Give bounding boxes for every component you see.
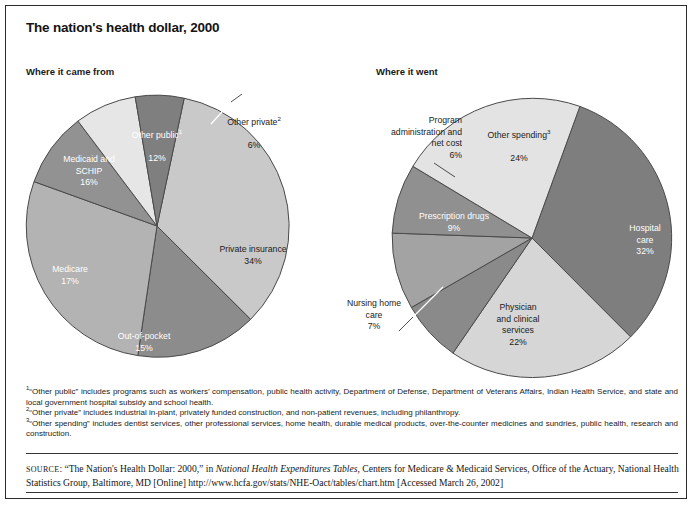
footnote-3: 3“Other spending” includes dentist servi… bbox=[26, 419, 678, 440]
footnote-marker-1: 1 bbox=[179, 128, 182, 135]
label-other-spending-name: Other spending bbox=[488, 130, 547, 140]
label-nursing-home-care: Nursing home care 7% bbox=[332, 298, 416, 333]
label-out-of-pocket: Out-of-pocket 15% bbox=[92, 331, 196, 354]
label-private-insurance: Private insurance 34% bbox=[198, 244, 308, 267]
footnote-marker-3: 3 bbox=[547, 128, 550, 135]
label-medicare: Medicare 17% bbox=[26, 264, 114, 287]
source-text-part1: : “The Nation's Health Dollar: 2000,” in bbox=[59, 463, 215, 474]
source-label: SOURCE bbox=[26, 465, 59, 474]
footnote-2-text: “Other private” includes industrial in-p… bbox=[29, 408, 460, 417]
label-other-spending: Other spending3 24% bbox=[461, 118, 577, 164]
divider-below-source bbox=[26, 492, 678, 493]
figure-frame: The nation's health dollar, 2000 Where i… bbox=[5, 5, 687, 499]
divider-above-source bbox=[26, 453, 678, 454]
source-note: SOURCE: “The Nation's Health Dollar: 200… bbox=[26, 462, 682, 489]
label-other-spending-value: 24% bbox=[510, 153, 527, 163]
footnote-1-text: “Other public” includes programs such as… bbox=[26, 387, 678, 407]
label-medicaid-schip: Medicaid and SCHIP 16% bbox=[38, 154, 140, 189]
label-other-private-value: 6% bbox=[248, 140, 261, 150]
figure-page: The nation's health dollar, 2000 Where i… bbox=[0, 0, 694, 505]
label-other-private-text: Other private bbox=[227, 117, 277, 127]
label-other-public-value: 12% bbox=[148, 153, 165, 163]
footnote-marker-2: 2 bbox=[277, 115, 280, 122]
label-prescription-drugs: Prescription drugs 9% bbox=[396, 211, 512, 234]
label-hospital-care: Hospital care 32% bbox=[614, 223, 676, 258]
footnotes-block: 1“Other public” includes programs such a… bbox=[26, 387, 678, 440]
label-other-private: Other private2 6% bbox=[206, 94, 302, 152]
footnote-1: 1“Other public” includes programs such a… bbox=[26, 387, 678, 408]
footnote-2: 2“Other private” includes industrial in-… bbox=[26, 408, 678, 419]
source-italic-title: National Health Expenditures Tables bbox=[216, 463, 358, 474]
label-physician-clinical: Physician and clinical services 22% bbox=[472, 302, 564, 348]
label-other-public-name: Other public bbox=[132, 130, 179, 140]
label-program-administration: Program administration and net cost 6% bbox=[358, 115, 462, 161]
footnote-3-text: “Other spending” includes dentist servic… bbox=[26, 419, 678, 439]
